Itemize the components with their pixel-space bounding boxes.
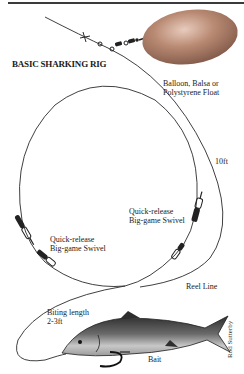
swivel-right-label: Quick-release Big-game Swivel: [129, 207, 185, 225]
float-connector: [98, 38, 145, 51]
float-label-line2: Polystyrene Float: [163, 88, 219, 97]
illustrator-credit: Rod Sutterby: [226, 321, 234, 358]
sharking-rig-diagram: [0, 0, 244, 374]
biting-length-label: Biting length 2-3ft: [47, 308, 89, 326]
swivel-left-label-line2: Big-game Swivel: [50, 244, 106, 253]
diagram-title: BASIC SHARKING RIG: [12, 59, 106, 69]
length-10ft-label: 10ft: [215, 157, 228, 166]
swivel-right-label-line2: Big-game Swivel: [129, 216, 185, 225]
bait-label: Bait: [148, 355, 161, 364]
swivel-left-label: Quick-release Big-game Swivel: [50, 235, 106, 253]
swivel-left-label-line1: Quick-release: [50, 235, 106, 244]
right-swivel: [191, 191, 205, 222]
reel-line-label: Reel Line: [186, 282, 217, 291]
float-label: Balloon, Balsa or Polystyrene Float: [163, 79, 219, 97]
swivel-right-label-line1: Quick-release: [129, 207, 185, 216]
balloon-float: [139, 4, 242, 71]
float-label-line1: Balloon, Balsa or: [163, 79, 219, 88]
biting-length-line1: Biting length: [47, 308, 89, 317]
biting-length-line2: 2-3ft: [47, 317, 89, 326]
